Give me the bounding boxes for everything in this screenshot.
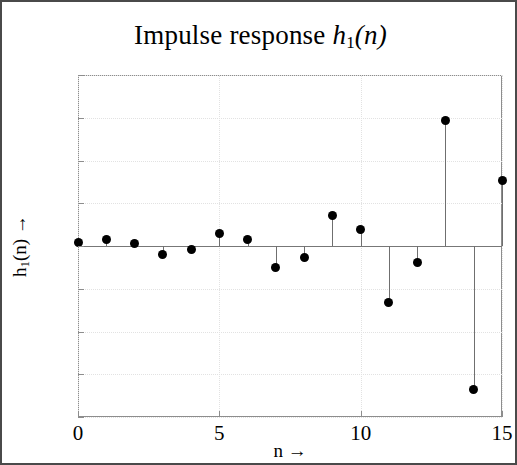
- stem-line: [474, 246, 475, 389]
- data-point-marker: [215, 229, 224, 238]
- y-tick-mark: [78, 332, 84, 333]
- gridline-horizontal: [78, 75, 502, 76]
- x-tick-mark: [219, 411, 220, 417]
- chart-title-prefix: Impulse response: [134, 20, 332, 50]
- chart-title-variable: h: [332, 20, 346, 50]
- data-point-marker: [328, 211, 337, 220]
- x-axis-label: n →: [78, 440, 502, 462]
- data-point-marker: [300, 253, 309, 262]
- stem-line: [445, 121, 446, 246]
- data-point-marker: [469, 385, 478, 394]
- y-tick-mark: [78, 374, 84, 375]
- x-tick-mark: [78, 411, 79, 417]
- stem-line: [389, 246, 390, 303]
- gridline-horizontal: [78, 118, 502, 119]
- gridline-horizontal: [78, 332, 502, 333]
- gridline-horizontal: [78, 289, 502, 290]
- gridline-horizontal: [78, 161, 502, 162]
- chart-title-subscript: 1: [346, 33, 355, 52]
- chart-title-argument: (n): [355, 20, 387, 50]
- chart-title: Impulse response h1(n): [2, 20, 517, 53]
- x-tick-mark: [361, 411, 362, 417]
- y-tick-mark: [78, 246, 84, 247]
- data-point-marker: [102, 235, 111, 244]
- y-tick-mark: [78, 161, 84, 162]
- data-point-marker: [498, 176, 507, 185]
- y-tick-mark: [78, 203, 84, 204]
- x-tick-mark: [502, 411, 503, 417]
- y-axis-label: h1(n) →: [9, 146, 33, 346]
- data-point-marker: [187, 245, 196, 254]
- data-point-marker: [413, 258, 422, 267]
- stem-line: [502, 181, 503, 246]
- gridline-horizontal: [78, 203, 502, 204]
- gridline-horizontal: [78, 374, 502, 375]
- gridline-horizontal: [78, 417, 502, 418]
- y-axis-label-variable: h: [9, 267, 30, 277]
- y-axis-label-subscript: 1: [17, 261, 32, 268]
- plot-area: 0.80.60.40.20−0.2−0.4−0.6−0.8 051015 h1(…: [78, 75, 502, 417]
- y-tick-mark: [78, 289, 84, 290]
- y-tick-mark: [78, 118, 84, 119]
- y-axis-label-rest: (n) →: [9, 215, 30, 261]
- stem-line: [332, 215, 333, 246]
- zero-axis-line: [78, 246, 502, 247]
- y-tick-mark: [78, 75, 84, 76]
- gridline-vertical: [502, 75, 503, 417]
- figure-canvas: Impulse response h1(n) 0.80.60.40.20−0.2…: [0, 0, 517, 465]
- y-tick-mark: [78, 417, 84, 418]
